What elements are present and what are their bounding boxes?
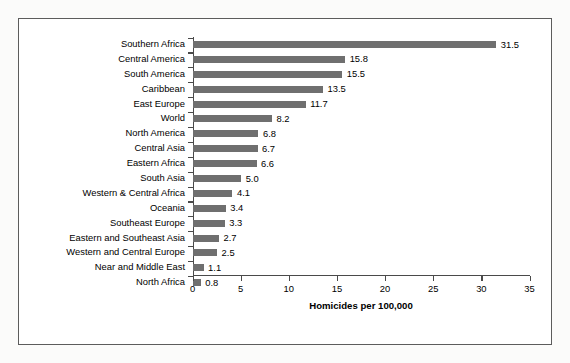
bar-row: 8.2: [193, 111, 533, 126]
bar: [193, 235, 219, 242]
x-axis-tick-label: 20: [380, 283, 390, 294]
bar-series: 31.515.815.513.511.78.26.86.76.65.04.13.…: [193, 37, 533, 290]
y-axis-tick: [188, 261, 193, 262]
bar-value-label: 8.2: [276, 113, 289, 124]
bar-value-label: 15.5: [347, 68, 365, 79]
category-label: Southeast Europe: [19, 216, 190, 231]
category-axis-labels: Southern AfricaCentral AmericaSouth Amer…: [19, 37, 190, 290]
y-axis-tick: [188, 112, 193, 113]
y-axis-tick: [188, 172, 193, 173]
category-label: World: [19, 111, 190, 126]
x-axis-tick-label: 5: [238, 283, 243, 294]
category-label: South America: [19, 67, 190, 82]
bar-value-label: 1.1: [208, 262, 221, 273]
y-axis-tick: [188, 38, 193, 39]
bar: [193, 264, 204, 271]
category-label: Western & Central Africa: [19, 186, 190, 201]
category-label: Central America: [19, 52, 190, 67]
bar-row: 11.7: [193, 97, 533, 112]
bar: [193, 205, 226, 212]
y-axis-tick: [188, 201, 193, 202]
bar: [193, 175, 241, 182]
category-label: East Europe: [19, 97, 190, 112]
x-axis-tick: [289, 276, 290, 281]
bar-row: 1.1: [193, 260, 533, 275]
x-axis-tick-label: 30: [476, 283, 486, 294]
x-axis-tick-label: 25: [428, 283, 438, 294]
category-label: North Africa: [19, 275, 190, 290]
bar-value-label: 3.3: [229, 217, 242, 228]
bar: [193, 220, 225, 227]
bar-row: 13.5: [193, 82, 533, 97]
bar-value-label: 6.8: [263, 128, 276, 139]
y-axis-tick: [188, 276, 193, 277]
y-axis-tick: [188, 127, 193, 128]
bar: [193, 249, 217, 256]
category-label: Eastern and Southeast Asia: [19, 231, 190, 246]
category-label: Oceania: [19, 201, 190, 216]
bar-chart: Southern AfricaCentral AmericaSouth Amer…: [19, 19, 553, 346]
bar-value-label: 13.5: [327, 83, 345, 94]
bar-value-label: 6.6: [261, 158, 274, 169]
y-axis-tick: [188, 187, 193, 188]
y-axis-tick: [188, 142, 193, 143]
x-axis-tick-label: 0: [190, 283, 195, 294]
x-axis-title: Homicides per 100,000: [193, 300, 530, 311]
x-axis-tick-label: 15: [332, 283, 342, 294]
bar: [193, 86, 323, 93]
bar-row: 5.0: [193, 171, 533, 186]
y-axis-tick: [188, 231, 193, 232]
y-axis-tick: [188, 52, 193, 53]
category-label: Eastern Africa: [19, 156, 190, 171]
x-axis-tick: [433, 276, 434, 281]
bar-value-label: 31.5: [501, 39, 519, 50]
y-axis-tick: [188, 97, 193, 98]
bar-row: 6.7: [193, 141, 533, 156]
bar-value-label: 0.8: [205, 277, 218, 288]
bar: [193, 145, 258, 152]
bar-value-label: 3.4: [230, 202, 243, 213]
x-axis-tick: [385, 276, 386, 281]
bar-value-label: 15.8: [350, 53, 368, 64]
y-axis-tick: [188, 82, 193, 83]
bar: [193, 101, 306, 108]
bar-value-label: 11.7: [310, 98, 328, 109]
bar-value-label: 5.0: [246, 173, 259, 184]
category-label: Central Asia: [19, 141, 190, 156]
bar: [193, 190, 232, 197]
y-axis-tick: [188, 157, 193, 158]
bar-row: 3.4: [193, 201, 533, 216]
x-axis-tick: [481, 276, 482, 281]
bar-row: 2.7: [193, 231, 533, 246]
bar: [193, 71, 342, 78]
bar-row: 2.5: [193, 245, 533, 260]
bar-value-label: 6.7: [262, 143, 275, 154]
y-axis-tick: [188, 67, 193, 68]
bar-row: 15.8: [193, 52, 533, 67]
bar-value-label: 2.5: [222, 247, 235, 258]
x-axis-tick-label: 35: [524, 283, 534, 294]
x-axis-tick-label: 10: [284, 283, 294, 294]
x-axis-tick: [337, 276, 338, 281]
bar: [193, 160, 257, 167]
x-axis-line: [193, 275, 530, 276]
bar: [193, 41, 496, 48]
bar-row: 4.1: [193, 186, 533, 201]
bar: [193, 130, 258, 137]
y-axis-tick: [188, 216, 193, 217]
bar-row: 6.6: [193, 156, 533, 171]
bar-value-label: 4.1: [237, 187, 250, 198]
y-axis-tick: [188, 246, 193, 247]
category-label: Caribbean: [19, 82, 190, 97]
chart-frame: Southern AfricaCentral AmericaSouth Amer…: [18, 18, 552, 345]
bar-row: 6.8: [193, 126, 533, 141]
bar: [193, 115, 272, 122]
bar: [193, 56, 345, 63]
x-axis-tick: [241, 276, 242, 281]
x-axis-tick: [530, 276, 531, 281]
bar-row: 31.5: [193, 37, 533, 52]
category-label: South Asia: [19, 171, 190, 186]
category-label: Western and Central Europe: [19, 245, 190, 260]
bar-row: 3.3: [193, 216, 533, 231]
category-label: Near and Middle East: [19, 260, 190, 275]
